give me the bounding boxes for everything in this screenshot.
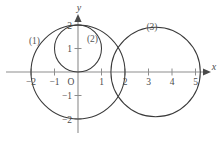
y-tick-label-1: 1 (67, 44, 72, 54)
y-tick-label--1: −1 (62, 91, 72, 101)
curve-label-2: (2) (87, 34, 98, 45)
curve-label-1: (1) (29, 36, 40, 47)
x-axis-arrowhead (203, 68, 211, 75)
coordinate-plot: −2 −1 1 2 3 4 5 2 1 −1 −2 O x y (1) (2) … (0, 0, 220, 143)
y-axis-label: y (76, 2, 82, 13)
x-axis-label: x (211, 61, 217, 72)
origin-label: O (68, 77, 75, 87)
y-tick-label-2: 2 (67, 21, 72, 31)
figure-canvas: −2 −1 1 2 3 4 5 2 1 −1 −2 O x y (1) (2) … (0, 0, 220, 143)
y-axis-arrowhead (74, 14, 81, 22)
x-tick-label-1: 1 (99, 77, 104, 87)
x-tick-label--1: −1 (49, 77, 59, 87)
x-tick-label-4: 4 (170, 77, 175, 87)
y-tick-label--2: −2 (62, 115, 72, 125)
x-tick-label-3: 3 (146, 77, 151, 87)
x-tick-label-2: 2 (123, 77, 128, 87)
x-tick-label--2: −2 (26, 77, 36, 87)
curve-label-3: (3) (146, 22, 157, 33)
x-tick-label-5: 5 (193, 77, 198, 87)
